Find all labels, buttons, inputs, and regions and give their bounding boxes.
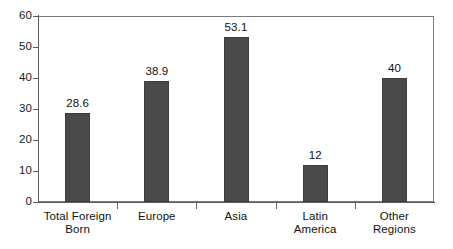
category-label: Europe (117, 210, 196, 223)
y-axis-tick-label: 20 (4, 134, 32, 146)
y-axis-tick-label: 60 (4, 10, 32, 22)
x-axis-tick (355, 203, 356, 209)
bar-chart-figure: 0102030405060 28.638.953.11240 Total For… (0, 0, 453, 249)
category-label: Latin America (276, 210, 355, 236)
category-label: Asia (196, 210, 275, 223)
bar (224, 37, 249, 202)
y-axis-tick (33, 171, 39, 172)
bar-value-label: 12 (285, 150, 345, 162)
y-axis-tick (33, 109, 39, 110)
bar-value-label: 38.9 (127, 66, 187, 78)
y-axis-tick-label: 50 (4, 41, 32, 53)
y-axis-tick (33, 47, 39, 48)
x-axis-tick (196, 203, 197, 209)
category-label: Other Regions (355, 210, 434, 236)
y-axis-tick-label: 10 (4, 165, 32, 177)
bar-value-label: 28.6 (48, 98, 108, 110)
bar (303, 165, 328, 202)
y-axis-tick-label: 0 (4, 196, 32, 208)
y-axis-tick (33, 78, 39, 79)
x-axis-tick (117, 203, 118, 209)
y-axis-tick-label: 40 (4, 72, 32, 84)
x-axis-tick (276, 203, 277, 209)
bar (382, 78, 407, 202)
y-axis-tick (33, 140, 39, 141)
y-axis-tick (33, 202, 39, 203)
x-axis-line (37, 202, 435, 203)
bar-value-label: 53.1 (206, 22, 266, 34)
bar-value-label: 40 (364, 63, 424, 75)
y-axis: 0102030405060 (0, 0, 32, 249)
y-axis-tick (33, 16, 39, 17)
y-axis-tick-label: 30 (4, 103, 32, 115)
category-label: Total Foreign Born (38, 210, 117, 236)
bar (65, 113, 90, 202)
bar (144, 81, 169, 202)
